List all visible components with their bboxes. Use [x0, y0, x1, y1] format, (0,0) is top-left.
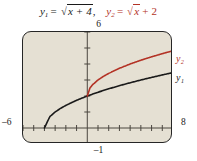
equation-y1-radicand: x + 4: [67, 4, 93, 17]
equation-y2-radical: √x: [126, 4, 140, 17]
plot-svg: [23, 32, 172, 143]
radical-sign-icon: √: [127, 5, 133, 17]
equation-y2-radicand: x: [133, 4, 140, 17]
radical-sign-icon: √: [61, 5, 67, 17]
equation-y2-trailing: + 2: [142, 5, 157, 17]
equation-y1-subscript: 1: [45, 11, 49, 19]
curve-y2: [87, 51, 172, 96]
curve-y1: [44, 73, 172, 128]
curves-group: [44, 51, 172, 128]
equation-y2: y2=√x+ 2: [106, 4, 157, 19]
curve-label-y1: y₁: [176, 72, 184, 83]
y-max-label: 6: [0, 19, 197, 29]
equation-caption: y1=√x + 4, y2=√x+ 2: [0, 4, 197, 19]
curve-label-y2: y₂: [176, 53, 184, 64]
x-max-label: 8: [181, 117, 186, 127]
y-min-label: –1: [0, 145, 197, 155]
equation-y1-radical: √x + 4: [60, 4, 93, 17]
equation-y1-separator: ,: [93, 5, 96, 17]
graph-viewport: [22, 31, 172, 143]
equation-y2-equals: =: [117, 5, 123, 17]
equation-y1-equals: =: [50, 5, 56, 17]
equation-y1: y1=√x + 4,: [40, 4, 96, 19]
x-min-label: –6: [2, 117, 12, 127]
equation-y2-subscript: 2: [111, 11, 115, 19]
